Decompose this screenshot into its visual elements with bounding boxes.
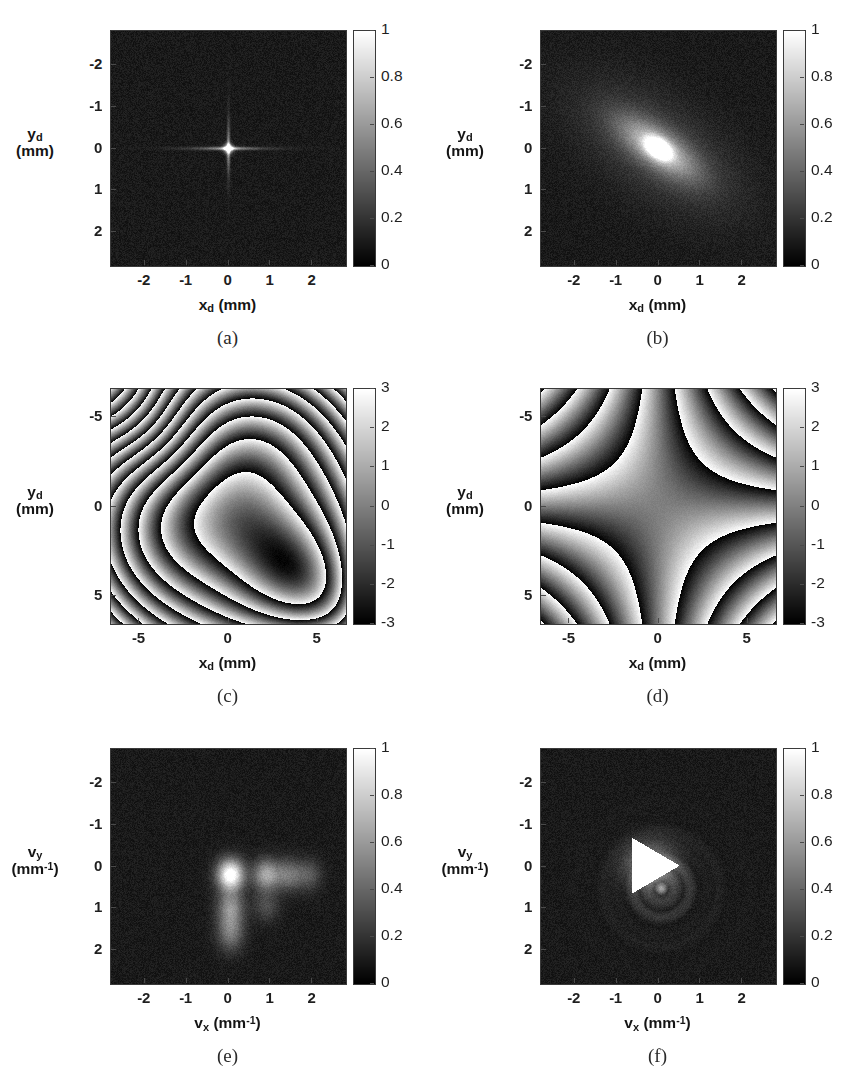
- panel-caption-e: (e): [70, 1045, 385, 1067]
- ytick-label-b-2: 0: [500, 139, 532, 156]
- xtick-mark-b-1: [616, 260, 617, 265]
- ytick-mark-e-1: [111, 824, 116, 825]
- xtick-label-e-3: 1: [249, 989, 289, 1006]
- colorbar-tick-b-3: 0.4: [811, 161, 833, 179]
- colorbar-tick-f-1: 0.8: [811, 785, 833, 803]
- colorbar-d[interactable]: [783, 388, 806, 625]
- ytick-label-a-3: 1: [70, 180, 102, 197]
- ytick-label-e-3: 1: [70, 898, 102, 915]
- ytick-label-b-3: 1: [500, 180, 532, 197]
- panel-caption-f: (f): [500, 1045, 815, 1067]
- ytick-mark-f-3: [541, 907, 546, 908]
- ytick-label-e-1: -1: [70, 815, 102, 832]
- ytick-label-e-4: 2: [70, 940, 102, 957]
- ytick-mark-c-2: [111, 595, 116, 596]
- xtick-mark-c-0: [138, 618, 139, 623]
- colorbar-tick-a-0: 1: [381, 20, 390, 38]
- ytick-label-b-0: -2: [500, 55, 532, 72]
- colorbar-tick-mark-c-4: [370, 545, 374, 546]
- plot-area-a[interactable]: [110, 30, 347, 267]
- panel-c: -505-505yd(mm)xd (mm)3210-1-2-3(c): [0, 0, 865, 1087]
- heatmap-canvas-a: [111, 31, 346, 266]
- colorbar-b[interactable]: [783, 30, 806, 267]
- xtick-mark-f-3: [699, 978, 700, 983]
- ytick-label-a-0: -2: [70, 55, 102, 72]
- xtick-label-c-1: 0: [208, 629, 248, 646]
- xtick-label-d-2: 5: [727, 629, 767, 646]
- xtick-label-a-2: 0: [208, 271, 248, 288]
- panel-a: -2-1012-2-1012yd(mm)xd (mm)10.80.60.40.2…: [0, 0, 865, 1087]
- xtick-label-b-2: 0: [638, 271, 678, 288]
- figure-root: -2-1012-2-1012yd(mm)xd (mm)10.80.60.40.2…: [0, 0, 865, 1087]
- colorbar-tick-d-0: 3: [811, 378, 820, 396]
- xtick-label-a-3: 1: [249, 271, 289, 288]
- colorbar-tick-c-1: 2: [381, 417, 390, 435]
- xtick-mark-e-4: [311, 978, 312, 983]
- plot-area-d[interactable]: [540, 388, 777, 625]
- colorbar-e[interactable]: [353, 748, 376, 985]
- colorbar-tick-mark-a-1: [370, 77, 374, 78]
- x-axis-label-d: xd (mm): [540, 655, 775, 673]
- ytick-mark-b-0: [541, 64, 546, 65]
- colorbar-tick-mark-f-2: [800, 842, 804, 843]
- ytick-mark-d-0: [541, 416, 546, 417]
- xtick-mark-b-2: [658, 260, 659, 265]
- xtick-label-c-0: -5: [118, 629, 158, 646]
- colorbar-tick-mark-b-1: [800, 77, 804, 78]
- ytick-mark-f-0: [541, 782, 546, 783]
- plot-area-b[interactable]: [540, 30, 777, 267]
- ytick-label-a-4: 2: [70, 222, 102, 239]
- colorbar-tick-e-2: 0.6: [381, 832, 403, 850]
- colorbar-tick-d-6: -3: [811, 613, 825, 631]
- plot-area-c[interactable]: [110, 388, 347, 625]
- colorbar-tick-b-4: 0.2: [811, 208, 833, 226]
- colorbar-tick-mark-d-5: [800, 584, 804, 585]
- ytick-mark-d-1: [541, 506, 546, 507]
- ytick-label-d-0: -5: [500, 407, 532, 424]
- scan-artifact: [0, 1069, 865, 1083]
- xtick-mark-f-4: [741, 978, 742, 983]
- y-axis-label-b: yd(mm): [432, 126, 498, 160]
- colorbar-tick-f-3: 0.4: [811, 879, 833, 897]
- colorbar-tick-e-4: 0.2: [381, 926, 403, 944]
- y-axis-label-f: vy(mm-1): [432, 844, 498, 878]
- xtick-mark-a-1: [186, 260, 187, 265]
- colorbar-f[interactable]: [783, 748, 806, 985]
- ytick-mark-e-2: [111, 866, 116, 867]
- ytick-mark-c-1: [111, 506, 116, 507]
- panel-b: -2-1012-2-1012yd(mm)xd (mm)10.80.60.40.2…: [0, 0, 865, 1087]
- ytick-label-f-0: -2: [500, 773, 532, 790]
- xtick-label-f-4: 2: [721, 989, 761, 1006]
- colorbar-gradient-c: [354, 389, 375, 624]
- colorbar-tick-mark-b-0: [800, 30, 804, 31]
- xtick-label-b-4: 2: [721, 271, 761, 288]
- colorbar-c[interactable]: [353, 388, 376, 625]
- panel-caption-a: (a): [70, 327, 385, 349]
- xtick-label-b-0: -2: [554, 271, 594, 288]
- colorbar-tick-mark-b-2: [800, 124, 804, 125]
- heatmap-canvas-f: [541, 749, 776, 984]
- panel-caption-d: (d): [500, 685, 815, 707]
- panel-caption-c: (c): [70, 685, 385, 707]
- plot-area-f[interactable]: [540, 748, 777, 985]
- colorbar-gradient-f: [784, 749, 805, 984]
- ytick-label-c-0: -5: [70, 407, 102, 424]
- plot-area-e[interactable]: [110, 748, 347, 985]
- colorbar-tick-mark-c-5: [370, 584, 374, 585]
- colorbar-tick-c-3: 0: [381, 496, 390, 514]
- colorbar-gradient-a: [354, 31, 375, 266]
- xtick-label-d-0: -5: [548, 629, 588, 646]
- xtick-mark-a-2: [228, 260, 229, 265]
- ytick-mark-d-2: [541, 595, 546, 596]
- y-axis-label-e: vy(mm-1): [2, 844, 68, 878]
- colorbar-tick-mark-d-6: [800, 623, 804, 624]
- colorbar-tick-a-4: 0.2: [381, 208, 403, 226]
- xtick-mark-d-0: [568, 618, 569, 623]
- xtick-label-b-1: -1: [596, 271, 636, 288]
- xtick-label-e-1: -1: [166, 989, 206, 1006]
- colorbar-tick-mark-c-1: [370, 427, 374, 428]
- xtick-mark-b-4: [741, 260, 742, 265]
- ytick-label-d-2: 5: [500, 586, 532, 603]
- panel-e: -2-1012-2-1012vy(mm-1)vx (mm-1)10.80.60.…: [0, 0, 865, 1087]
- colorbar-a[interactable]: [353, 30, 376, 267]
